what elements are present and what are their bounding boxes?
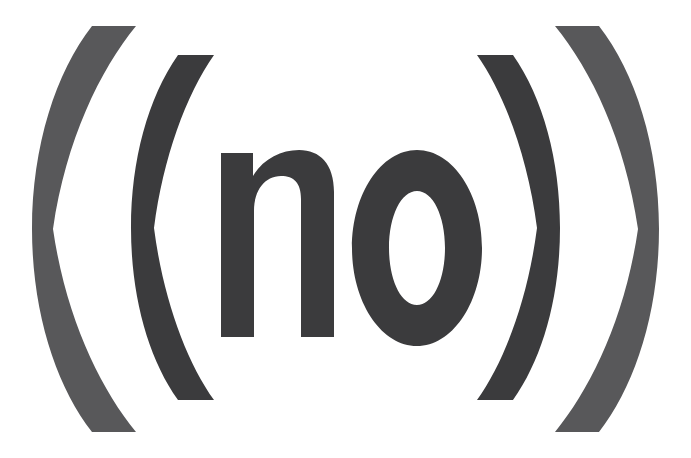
logo-canvas: no (( )) ((no)) logo Two nested signal-w…: [0, 0, 691, 458]
logo-artwork: [0, 0, 691, 458]
